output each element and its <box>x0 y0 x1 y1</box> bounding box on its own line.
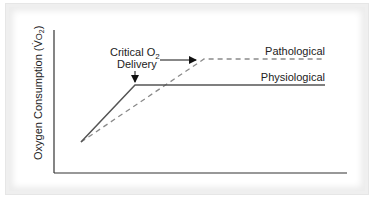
critical-label-line2: Delivery <box>117 58 157 70</box>
chart-svg: Oxygen Consumption (V̇O2) Pathological P… <box>0 0 382 201</box>
y-axis-label: Oxygen Consumption (V̇O2) <box>32 26 45 160</box>
physiological-label: Physiological <box>261 71 325 83</box>
pathological-label: Pathological <box>265 45 325 57</box>
physiological-line <box>81 85 325 142</box>
